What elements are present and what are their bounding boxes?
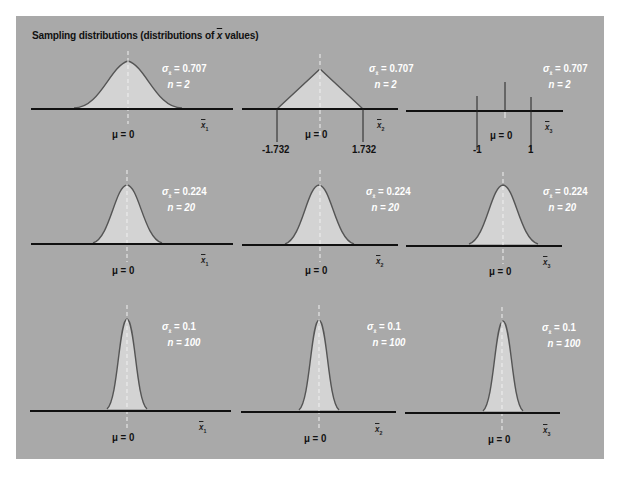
plot-row2-col1 bbox=[31, 170, 233, 262]
xvar-sub: 3 bbox=[547, 431, 550, 437]
mu-label-r2c1: μ = 0 bbox=[112, 264, 134, 276]
n-value: n = 2 bbox=[374, 78, 396, 90]
xvar-label-r1c2: x2 bbox=[377, 120, 384, 132]
plot-row3-col3 bbox=[405, 307, 560, 432]
xvar-sub: 3 bbox=[547, 263, 550, 269]
sigma-label-r1c2: σx̄ = 0.707 n = 2 bbox=[369, 63, 414, 90]
mu-label-r2c3: μ = 0 bbox=[489, 265, 511, 277]
n-value: n = 20 bbox=[548, 201, 576, 213]
xvar-sub: 2 bbox=[380, 262, 383, 268]
sigma-label-r1c1: σx̄ = 0.707 n = 2 bbox=[162, 63, 207, 90]
mu-label-r3c1: μ = 0 bbox=[112, 431, 134, 443]
n-value: n = 20 bbox=[167, 201, 195, 213]
xvar-label-r3c3: x3 bbox=[543, 425, 550, 437]
n-value: n = 100 bbox=[372, 336, 405, 348]
tick-label-pos: 1 bbox=[528, 143, 533, 155]
mu-label-r3c2: μ = 0 bbox=[304, 432, 326, 444]
sigma-label-r3c2: σx̄ = 0.1 n = 100 bbox=[367, 321, 405, 348]
sigma-value: = 0.1 bbox=[551, 321, 575, 333]
xvar-label-r1c3: x3 bbox=[545, 122, 552, 134]
xvar-label-r3c1: x1 bbox=[199, 422, 206, 434]
plot-row3-col1 bbox=[30, 305, 231, 428]
sigma-label-r1c3: σx̄ = 0.707 n = 2 bbox=[543, 63, 588, 90]
n-value: n = 100 bbox=[547, 337, 580, 349]
xvar-sub: 2 bbox=[379, 430, 382, 436]
plot-row2-col2 bbox=[242, 170, 398, 262]
sigma-label-r3c1: σx̄ = 0.1 n = 100 bbox=[162, 321, 200, 348]
mu-label-r3c3: μ = 0 bbox=[488, 433, 510, 445]
sigma-value: = 0.224 bbox=[171, 185, 206, 197]
n-value: n = 2 bbox=[548, 78, 570, 90]
xvar-sub: 1 bbox=[203, 428, 206, 434]
xvar-sub: 3 bbox=[549, 128, 552, 134]
mu-label-r1c1: μ = 0 bbox=[112, 128, 134, 140]
plot-row2-col3 bbox=[406, 172, 562, 264]
sigma-label-r2c3: σx̄ = 0.224 n = 20 bbox=[543, 186, 588, 213]
sigma-value: = 0.1 bbox=[171, 320, 195, 332]
xvar-label-r2c3: x3 bbox=[543, 257, 550, 269]
xvar-sub: 2 bbox=[381, 126, 384, 132]
xvar-label-r2c2: x2 bbox=[376, 256, 383, 268]
xvar-label-r3c2: x2 bbox=[375, 424, 382, 436]
plot-row1-col3 bbox=[406, 82, 563, 150]
sigma-value: = 0.707 bbox=[171, 62, 206, 74]
mu-label-r1c2: μ = 0 bbox=[305, 128, 327, 140]
xvar-label-r1c1: x1 bbox=[201, 120, 208, 132]
sigma-value: = 0.1 bbox=[376, 320, 400, 332]
sigma-value: = 0.707 bbox=[378, 62, 413, 74]
sigma-label-r2c2: σx̄ = 0.224 n = 20 bbox=[366, 186, 411, 213]
n-value: n = 2 bbox=[167, 78, 189, 90]
mu-label-r1c3: μ = 0 bbox=[490, 129, 512, 141]
sigma-value: = 0.224 bbox=[375, 185, 410, 197]
mu-label-r2c2: μ = 0 bbox=[305, 264, 327, 276]
tick-label-neg: -1.732 bbox=[262, 143, 289, 155]
xvar-sub: 1 bbox=[205, 126, 208, 132]
distribution-plots bbox=[0, 0, 625, 481]
n-value: n = 100 bbox=[167, 336, 200, 348]
sigma-value: = 0.707 bbox=[552, 62, 587, 74]
tick-label-pos: 1.732 bbox=[352, 143, 376, 155]
tick-label-neg: -1 bbox=[473, 143, 482, 155]
sigma-label-r3c3: σx̄ = 0.1 n = 100 bbox=[542, 322, 580, 349]
xvar-label-r2c1: x1 bbox=[201, 255, 208, 267]
sigma-value: = 0.224 bbox=[552, 185, 587, 197]
xvar-sub: 1 bbox=[205, 261, 208, 267]
n-value: n = 20 bbox=[371, 201, 399, 213]
sigma-label-r2c1: σx̄ = 0.224 n = 20 bbox=[162, 186, 207, 213]
